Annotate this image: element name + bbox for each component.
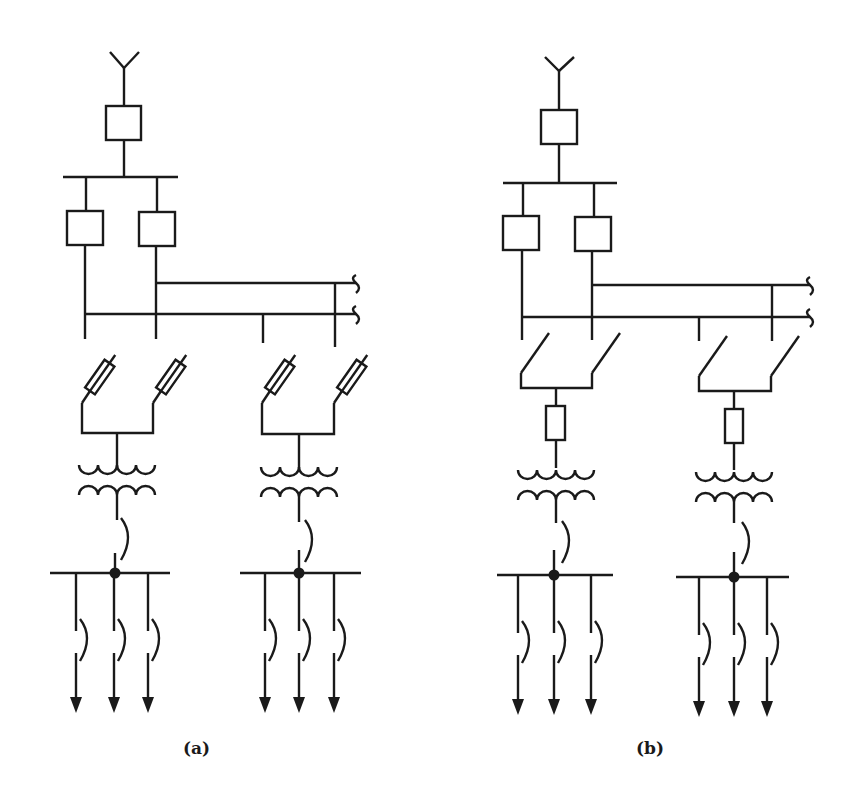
single-line-diagram [0, 0, 851, 810]
branch-breaker-2 [575, 217, 611, 251]
outgoing-feeder [259, 573, 276, 713]
panel-a [50, 52, 372, 713]
load-break-switch [699, 336, 727, 376]
branch-breaker-2 [139, 212, 175, 246]
outgoing-feeder [548, 575, 565, 715]
transformer-icon [696, 472, 772, 502]
outgoing-feeder [108, 573, 125, 713]
outgoing-feeder [512, 575, 529, 715]
fuse-switch [334, 352, 372, 403]
caption-b: (b) [636, 738, 664, 758]
branch-breaker-1 [67, 211, 103, 245]
load-break-switch [592, 333, 620, 373]
transformer-icon [261, 467, 337, 497]
outgoing-feeder [70, 573, 87, 713]
incoming-breaker [541, 110, 577, 144]
transformer-icon [518, 470, 594, 500]
antenna-icon [545, 57, 574, 110]
outgoing-feeder [142, 573, 159, 713]
outgoing-feeder [693, 577, 710, 717]
fuse-switch [262, 352, 300, 403]
antenna-icon [110, 52, 139, 106]
load-break-switch [771, 336, 799, 376]
caption-a: (a) [183, 738, 210, 758]
fuse-icon [725, 409, 743, 443]
panel-b [497, 57, 813, 717]
branch-breaker-1 [503, 216, 539, 250]
fuse-switch [153, 352, 191, 403]
outgoing-feeder [761, 577, 778, 717]
fuse-icon [546, 406, 565, 440]
transformer-icon [79, 465, 155, 495]
outgoing-feeder [585, 575, 602, 715]
outgoing-feeder [728, 577, 745, 717]
load-break-switch [521, 333, 549, 373]
outgoing-feeder [293, 573, 310, 713]
incoming-breaker [106, 106, 141, 140]
outgoing-feeder [328, 573, 345, 713]
fuse-switch [82, 352, 120, 403]
